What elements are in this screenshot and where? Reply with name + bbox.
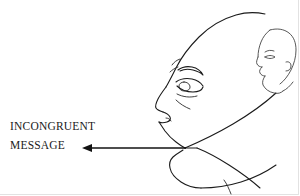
lower-lip-and-chin-contour <box>170 150 201 188</box>
jawline-contour <box>197 148 260 188</box>
caption-line-2: MESSAGE <box>10 136 130 155</box>
foreground-head <box>156 13 276 194</box>
cheek-and-jaw-sweep <box>185 93 276 148</box>
eye-iris <box>179 82 190 91</box>
cheek-line <box>176 100 190 109</box>
background-chin-contour <box>263 76 283 93</box>
figure-root: INCONGRUENT MESSAGE <box>0 0 300 196</box>
background-nose-contour <box>257 57 262 67</box>
lower-eye-fold <box>177 94 197 97</box>
caption-block: INCONGRUENT MESSAGE <box>10 117 130 155</box>
brow-and-nose-bridge-contour <box>156 87 166 112</box>
neck-front-contour <box>201 165 276 188</box>
background-forehead-contour <box>258 30 270 57</box>
line-drawing <box>0 0 300 196</box>
eyebrow <box>178 67 203 75</box>
background-eye <box>265 56 275 59</box>
background-head <box>257 29 296 93</box>
nose-tip-and-nostril-contour <box>159 112 170 123</box>
background-eyebrow <box>265 50 274 52</box>
background-jawline <box>283 82 293 91</box>
skull-crown-and-forehead-contour <box>166 13 265 87</box>
caption-line-1: INCONGRUENT <box>10 117 130 136</box>
background-ear <box>286 62 291 71</box>
background-upper-lip-contour <box>260 67 265 76</box>
philtrum-and-upper-lip-contour <box>159 122 185 148</box>
neck-crease <box>224 180 231 194</box>
